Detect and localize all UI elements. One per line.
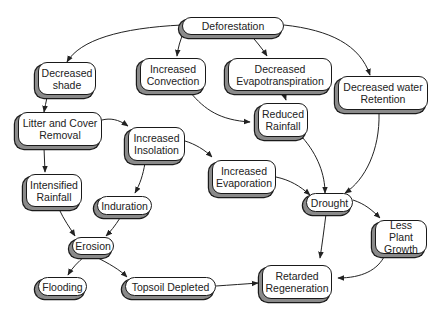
node-increased-convection: Increased Convection: [140, 58, 206, 91]
node-increased-insolation: Increased Insolation: [128, 127, 185, 161]
edge-litter-cover-removal-intensified-rainfall: [44, 148, 45, 172]
edge-erosion-topsoil-depleted: [94, 256, 127, 277]
edge-increased-convection-reduced-rainfall: [190, 92, 250, 122]
node-less-plant-growth: Less Plant Growth: [375, 220, 427, 254]
node-retarded-regeneration: Retarded Regeneration: [262, 265, 332, 299]
edge-drought-less-plant-growth: [353, 200, 380, 218]
node-reduced-rainfall: Reduced Rainfall: [258, 103, 308, 137]
edge-decreased-evapotranspiration-reduced-rainfall: [283, 92, 286, 100]
edge-topsoil-depleted-retarded-regeneration: [216, 283, 258, 286]
concept-map-edges: [0, 0, 442, 312]
edge-deforestation-decreased-evapotranspiration: [248, 32, 267, 56]
node-erosion: Erosion: [72, 237, 114, 255]
node-intensified-rainfall: Intensified Rainfall: [26, 174, 82, 207]
edge-increased-evaporation-drought: [276, 177, 310, 195]
node-topsoil-depleted: Topsoil Depleted: [125, 277, 216, 296]
node-deforestation: Deforestation: [182, 17, 284, 35]
edge-drought-retarded-regeneration: [320, 214, 326, 258]
edge-increased-insolation-induration: [135, 163, 145, 193]
node-drought: Drought: [306, 193, 353, 212]
edge-deforestation-increased-convection: [177, 32, 184, 56]
edge-induration-erosion: [106, 218, 120, 236]
edge-reduced-rainfall-drought: [302, 137, 325, 193]
node-flooding: Flooding: [38, 277, 87, 296]
node-decreased-evapotranspiration: Decreased Evapotranspiration: [228, 58, 332, 91]
node-decreased-water-retention: Decreased water Retention: [338, 76, 428, 110]
edge-intensified-rainfall-erosion: [59, 209, 75, 236]
node-induration: Induration: [97, 196, 152, 215]
edge-erosion-flooding: [68, 256, 85, 275]
edge-deforestation-decreased-shade: [67, 25, 182, 62]
node-decreased-shade: Decreased shade: [38, 62, 96, 95]
edge-decreased-water-retention-drought: [345, 113, 379, 193]
edge-increased-insolation-increased-evaporation: [185, 141, 212, 157]
edge-decreased-shade-litter-cover-removal: [44, 97, 47, 112]
node-litter-cover-removal: Litter and Cover Removal: [18, 112, 102, 146]
node-increased-evaporation: Increased Evaporation: [212, 160, 276, 194]
edge-less-plant-growth-retarded-regeneration: [338, 255, 385, 278]
edge-litter-cover-removal-increased-insolation: [102, 119, 128, 126]
